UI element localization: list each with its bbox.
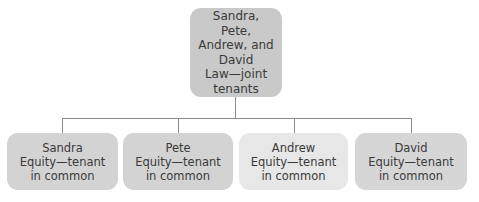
andrew-connector	[294, 118, 295, 133]
root-line-3: David	[196, 53, 276, 68]
child-line-3: in common	[135, 169, 221, 183]
sandra-connector	[62, 118, 63, 133]
root-connector	[235, 97, 236, 118]
root-line-2: Andrew, and	[196, 38, 276, 53]
child-line-2: Equity—tenant	[251, 155, 337, 169]
child-line-3: in common	[20, 169, 106, 183]
child-name: David	[368, 141, 454, 155]
child-line-2: Equity—tenant	[20, 155, 106, 169]
child-node-andrew: Andrew Equity—tenant in common	[239, 133, 348, 190]
child-node-sandra: Sandra Equity—tenant in common	[7, 133, 118, 190]
child-name: Andrew	[251, 141, 337, 155]
child-name: Pete	[135, 141, 221, 155]
child-line-3: in common	[368, 169, 454, 183]
child-line-3: in common	[251, 169, 337, 183]
david-connector	[411, 118, 412, 133]
root-line-4: Law—joint	[196, 67, 276, 82]
root-line-1: Sandra, Pete,	[196, 9, 276, 38]
child-node-david: David Equity—tenant in common	[355, 133, 467, 190]
child-name: Sandra	[20, 141, 106, 155]
horizontal-connector	[62, 118, 412, 119]
child-line-2: Equity—tenant	[368, 155, 454, 169]
root-line-5: tenants	[196, 82, 276, 97]
root-node-joint-tenants: Sandra, Pete, Andrew, and David Law—join…	[190, 8, 282, 97]
child-line-2: Equity—tenant	[135, 155, 221, 169]
child-node-pete: Pete Equity—tenant in common	[123, 133, 233, 190]
pete-connector	[178, 118, 179, 133]
